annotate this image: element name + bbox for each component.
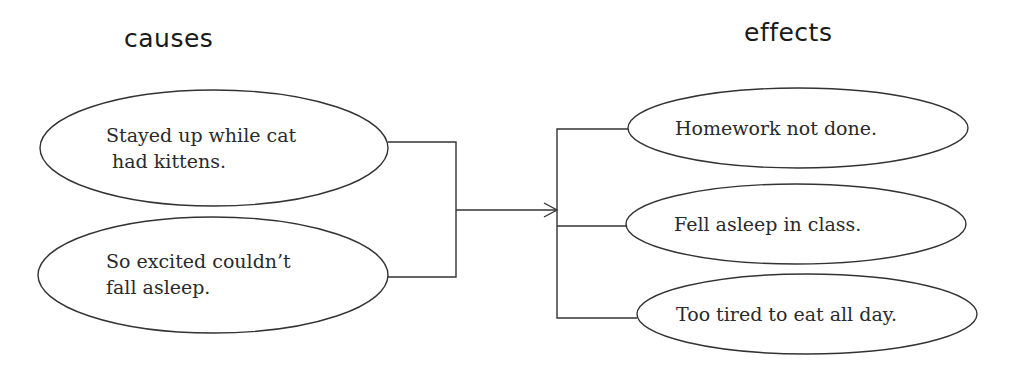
cause-1-line1: Stayed up while cat [106, 122, 296, 148]
causes-bracket [387, 142, 456, 277]
effect-1-text: Homework not done. [675, 115, 877, 141]
effects-bracket [557, 129, 637, 318]
causes-heading: causes [124, 24, 213, 53]
cause-2-line2: fall asleep. [106, 274, 291, 300]
cause-1-text: Stayed up while cat had kittens. [106, 122, 296, 174]
cause-2-text: So excited couldn’t fall asleep. [106, 248, 291, 300]
effects-heading: effects [744, 18, 832, 47]
effect-2-text: Fell asleep in class. [674, 211, 861, 237]
effect-3-text: Too tired to eat all day. [676, 301, 897, 327]
cause-2-line1: So excited couldn’t [106, 248, 291, 274]
cause-1-line2: had kittens. [106, 148, 296, 174]
